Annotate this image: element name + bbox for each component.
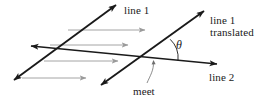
label-line-1-translated: line 1 translated <box>210 14 254 38</box>
geometry-figure: line 1 line 1 translated line 2 meet θ <box>0 0 264 99</box>
label-line-1: line 1 <box>124 4 149 16</box>
translation-arrow-group <box>22 30 145 78</box>
line-1-translated-stroke <box>101 11 204 85</box>
label-line-1-translated-part1: line 1 <box>210 14 235 26</box>
meet-leader-arrowhead <box>152 60 156 65</box>
label-line-1-translated-part2: translated <box>210 26 254 38</box>
line-1-stroke <box>14 5 116 80</box>
meet-leader-line <box>147 62 154 84</box>
label-line-2: line 2 <box>209 71 234 83</box>
label-meet: meet <box>133 85 155 97</box>
label-theta-angle: θ <box>176 39 182 51</box>
